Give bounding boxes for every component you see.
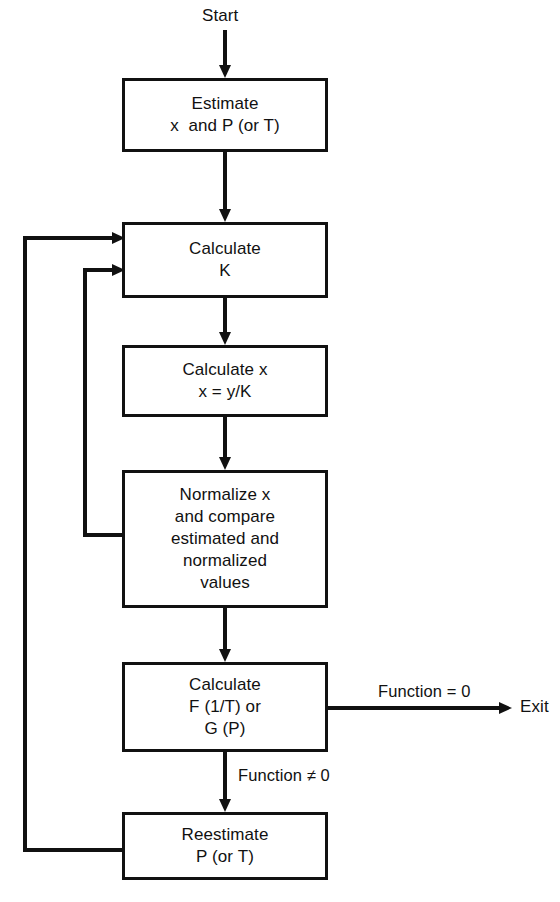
process-box-calculate-x-line-1: Calculate x: [182, 359, 267, 381]
process-box-calculate-f[interactable]: Calculate F (1/T) or G (P): [122, 662, 328, 752]
process-box-reestimate-line-2: P (or T): [196, 846, 254, 868]
exit-terminal-label: Exit: [520, 697, 549, 717]
connector-normalize-feedback: [85, 270, 122, 535]
process-box-calculate-k-line-1: Calculate: [189, 238, 261, 260]
edge-label-function-equals-zero: Function = 0: [378, 682, 470, 701]
process-box-calculate-f-line-3: G (P): [204, 718, 245, 740]
process-box-reestimate-line-1: Reestimate: [182, 824, 269, 846]
process-box-normalize[interactable]: Normalize x and compare estimated and no…: [122, 470, 328, 608]
process-box-calculate-f-line-1: Calculate: [189, 674, 261, 696]
flowchart-canvas: Start Exit Function = 0 Function ≠ 0 Est…: [0, 0, 560, 902]
process-box-normalize-line-4: normalized: [183, 550, 267, 572]
process-box-normalize-line-5: values: [200, 572, 250, 594]
start-terminal-label: Start: [202, 6, 238, 26]
process-box-calculate-x[interactable]: Calculate x x = y/K: [122, 345, 328, 417]
process-box-calculate-k-line-2: K: [219, 260, 230, 282]
process-box-normalize-line-3: estimated and: [171, 528, 279, 550]
connector-reestimate-feedback: [25, 238, 122, 850]
process-box-estimate[interactable]: Estimate x and P (or T): [122, 78, 328, 152]
process-box-normalize-line-1: Normalize x: [180, 484, 271, 506]
process-box-calculate-x-line-2: x = y/K: [198, 381, 251, 403]
process-box-reestimate[interactable]: Reestimate P (or T): [122, 812, 328, 880]
process-box-calculate-k[interactable]: Calculate K: [122, 222, 328, 298]
process-box-estimate-line-1: Estimate: [192, 93, 259, 115]
edge-label-function-not-zero: Function ≠ 0: [238, 766, 330, 785]
process-box-calculate-f-line-2: F (1/T) or: [189, 696, 261, 718]
process-box-estimate-line-2: x and P (or T): [170, 115, 280, 137]
process-box-normalize-line-2: and compare: [175, 506, 275, 528]
